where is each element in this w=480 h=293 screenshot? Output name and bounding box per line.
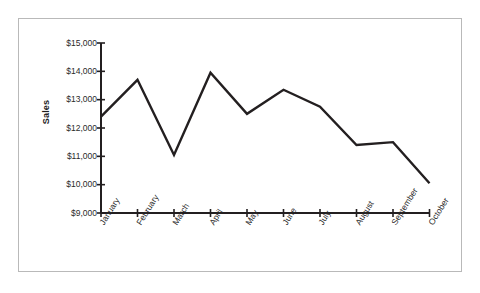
x-axis-tick-label: August [354,200,376,227]
x-axis-tick-label: June [281,206,298,226]
x-axis-tick-labels: JanuaryFebruaryMarchAprilMayJuneJulyAugu… [19,19,463,273]
x-axis-tick-label: September [390,187,420,227]
y-axis-title: Sales [41,82,51,142]
x-axis-tick-label: May [244,208,260,226]
chart-screenshot: $9,000$10,000$11,000$12,000$13,000$14,00… [0,0,480,293]
x-axis-tick-label: January [98,196,122,226]
x-axis-tick-label: October [427,196,451,226]
chart-frame: $9,000$10,000$11,000$12,000$13,000$14,00… [18,18,462,272]
x-axis-tick-label: April [208,208,225,227]
x-axis-tick-label: February [135,193,161,227]
x-axis-tick-label: July [317,209,333,227]
plot-area: $9,000$10,000$11,000$12,000$13,000$14,00… [19,19,463,273]
x-axis-tick-label: March [171,202,191,227]
